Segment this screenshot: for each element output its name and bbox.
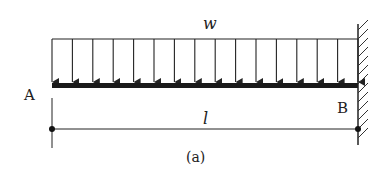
cantilever-beam-diagram: w l A B (a) bbox=[0, 0, 392, 173]
right-dimension-dot bbox=[355, 126, 361, 132]
load-label: w bbox=[203, 14, 217, 33]
beam bbox=[52, 83, 358, 88]
point-b-label: B bbox=[337, 99, 348, 117]
left-dimension-dot bbox=[49, 126, 55, 132]
figure-caption: (a) bbox=[186, 149, 205, 165]
length-label: l bbox=[203, 109, 208, 128]
point-a-label: A bbox=[23, 86, 35, 104]
distributed-load bbox=[52, 39, 358, 82]
load-arrows bbox=[52, 39, 358, 82]
fixed-wall-support bbox=[358, 20, 368, 145]
